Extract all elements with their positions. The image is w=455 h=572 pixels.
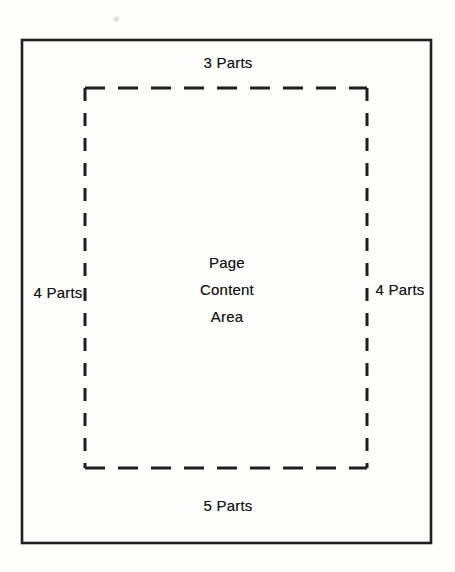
left-margin-label: 4 Parts <box>34 284 83 301</box>
content-area-label: Page Content Area <box>200 249 254 330</box>
page-margin-diagram: 3 Parts 4 Parts 4 Parts 5 Parts Page Con… <box>0 0 455 572</box>
scan-speckle <box>114 17 119 21</box>
right-margin-label: 4 Parts <box>376 281 425 298</box>
content-area-label-line3: Area <box>200 303 254 330</box>
top-margin-label: 3 Parts <box>204 54 253 71</box>
content-area-label-line2: Content <box>200 276 254 303</box>
content-area-label-line1: Page <box>200 249 254 276</box>
bottom-margin-label: 5 Parts <box>204 497 253 514</box>
